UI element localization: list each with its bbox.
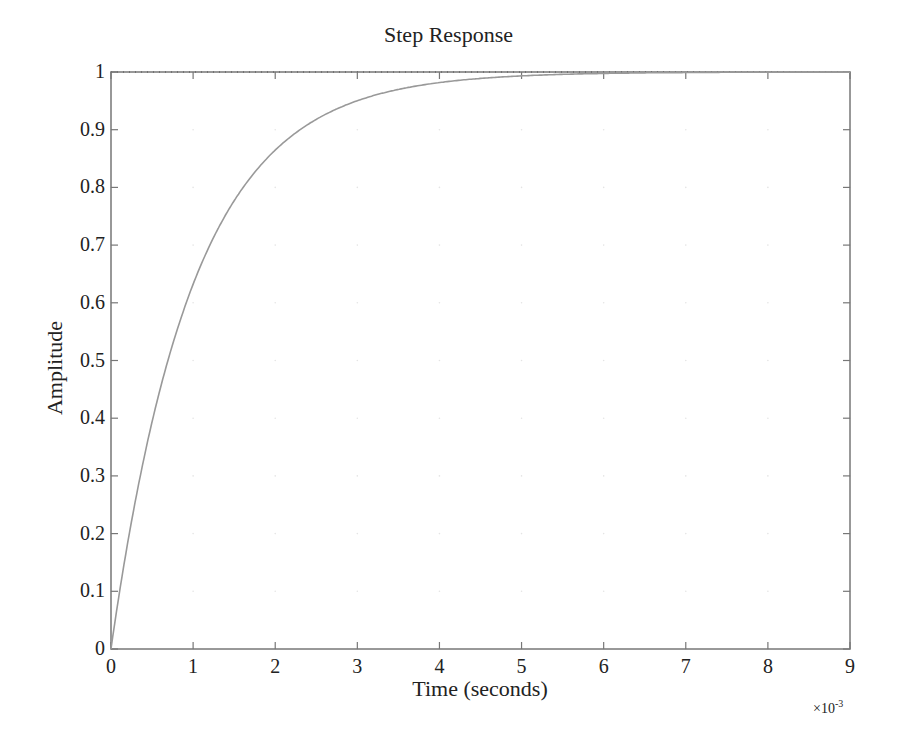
y-tick-label: 0.6 [80, 291, 105, 313]
y-tick-label: 1 [95, 60, 105, 82]
grid-dot [192, 302, 194, 304]
grid-dot [603, 591, 605, 593]
grid-dot [685, 360, 687, 362]
y-tick-label: 0.3 [80, 464, 105, 486]
grid-dot [274, 591, 276, 593]
y-tick-label: 0.4 [80, 406, 105, 428]
grid-dot [274, 129, 276, 131]
grid-dot [767, 417, 769, 419]
y-tick-label: 0 [95, 637, 105, 659]
axes-frame [111, 72, 850, 649]
grid-dot [192, 475, 194, 477]
grid-dot [603, 187, 605, 189]
grid-dot [192, 187, 194, 189]
plot-area: 012345678900.10.20.30.40.50.60.70.80.91 [0, 0, 897, 749]
grid-dot [767, 302, 769, 304]
grid-dot [521, 417, 523, 419]
grid-dot [274, 302, 276, 304]
grid-dot [685, 475, 687, 477]
grid-dot [274, 187, 276, 189]
x-tick-label: 2 [270, 655, 280, 677]
grid-dot [274, 533, 276, 535]
grid-dot [357, 417, 359, 419]
grid-dot [439, 244, 441, 246]
grid-dot [521, 475, 523, 477]
grid-dot [521, 129, 523, 131]
grid-dot [521, 533, 523, 535]
y-tick-label: 0.2 [80, 522, 105, 544]
y-tick-label: 0.9 [80, 118, 105, 140]
grid-dot [439, 591, 441, 593]
x-tick-label: 0 [106, 655, 116, 677]
grid-dot [274, 475, 276, 477]
grid-dot [603, 533, 605, 535]
grid-dot [685, 244, 687, 246]
y-tick-label: 0.8 [80, 175, 105, 197]
grid-dot [357, 129, 359, 131]
grid-dot [767, 129, 769, 131]
x-tick-label: 4 [434, 655, 444, 677]
grid-dot [192, 360, 194, 362]
x-tick-label: 1 [188, 655, 198, 677]
grid-dot [357, 302, 359, 304]
grid-dot [767, 187, 769, 189]
grid-dot [439, 129, 441, 131]
grid-dot [192, 244, 194, 246]
grid-dot [439, 475, 441, 477]
grid-dot [521, 187, 523, 189]
grid-dot [439, 417, 441, 419]
grid-dot [439, 360, 441, 362]
grid-dot [357, 244, 359, 246]
x-tick-label: 5 [517, 655, 527, 677]
grid-dot [603, 360, 605, 362]
grid-dot [603, 417, 605, 419]
grid-dot [357, 591, 359, 593]
grid-dot [767, 244, 769, 246]
x-tick-label: 7 [681, 655, 691, 677]
grid-dot [521, 244, 523, 246]
grid-dot [603, 244, 605, 246]
grid-dot [439, 533, 441, 535]
y-tick-label: 0.1 [80, 579, 105, 601]
grid-dot [603, 475, 605, 477]
x-tick-label: 3 [352, 655, 362, 677]
grid-dot [685, 417, 687, 419]
x-tick-label: 9 [845, 655, 855, 677]
grid-dot [274, 244, 276, 246]
grid-dot [685, 129, 687, 131]
grid-dot [357, 187, 359, 189]
grid-dot [767, 475, 769, 477]
grid-dot [685, 187, 687, 189]
step-response-curve [111, 72, 850, 649]
grid-dot [521, 591, 523, 593]
y-tick-label: 0.5 [80, 349, 105, 371]
y-tick-label: 0.7 [80, 233, 105, 255]
grid-dot [274, 417, 276, 419]
grid-dot [603, 129, 605, 131]
grid-dot [521, 302, 523, 304]
grid-dot [767, 360, 769, 362]
grid-dot [192, 533, 194, 535]
grid-dot [274, 360, 276, 362]
grid-dot [357, 533, 359, 535]
grid-dot [357, 475, 359, 477]
x-tick-label: 6 [599, 655, 609, 677]
grid-dot [439, 187, 441, 189]
grid-dot [685, 302, 687, 304]
grid-dot [357, 360, 359, 362]
grid-dot [685, 591, 687, 593]
grid-dot [192, 591, 194, 593]
grid-dot [685, 533, 687, 535]
grid-dot [767, 591, 769, 593]
grid-dot [192, 129, 194, 131]
grid-dot [767, 533, 769, 535]
grid-dot [192, 417, 194, 419]
grid-dot [521, 360, 523, 362]
grid-dot [603, 302, 605, 304]
grid-dot [439, 302, 441, 304]
x-tick-label: 8 [763, 655, 773, 677]
